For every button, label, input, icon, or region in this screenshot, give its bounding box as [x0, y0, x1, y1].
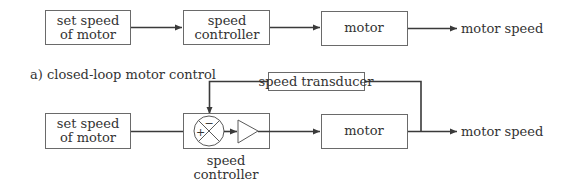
- motor-control-diagram: set speed of motor speed controller moto…: [0, 0, 569, 194]
- output-label-closed: motor speed: [461, 124, 543, 139]
- controller-caption-1: speed: [207, 153, 246, 168]
- set-speed-label-2: of motor: [60, 27, 117, 42]
- output-label: motor speed: [461, 21, 543, 36]
- set-speed-label-1: set speed: [57, 13, 119, 28]
- controller-caption-2: controller: [194, 167, 260, 182]
- transducer-label: speed transducer: [259, 74, 375, 89]
- controller-label-1: speed: [208, 13, 247, 28]
- closed-loop-diagram: speed transducer set speed of motor + − …: [46, 73, 544, 183]
- set-speed-label-closed-2: of motor: [60, 130, 117, 145]
- motor-label-closed: motor: [344, 123, 384, 138]
- caption: a) closed-loop motor control: [30, 67, 216, 82]
- set-speed-label-closed-1: set speed: [57, 116, 119, 131]
- minus-sign: −: [204, 117, 213, 130]
- controller-label-2: controller: [195, 27, 261, 42]
- motor-label: motor: [344, 20, 384, 35]
- open-loop-diagram: set speed of motor speed controller moto…: [46, 11, 544, 46]
